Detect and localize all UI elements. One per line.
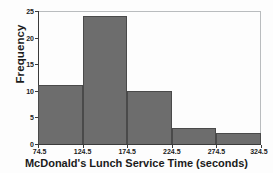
x-axis-label: McDonald's Lunch Service Time (seconds) <box>0 157 273 169</box>
y-tick-label: 10 <box>26 87 34 94</box>
y-tick-mark <box>35 11 38 12</box>
plot-area: 0510152025 74.5124.5174.5224.5274.5324.5 <box>38 11 261 145</box>
y-tick-label: 20 <box>26 34 34 41</box>
x-tick-label: 174.5 <box>118 148 136 155</box>
x-tick-label: 224.5 <box>163 148 181 155</box>
x-tick-label: 324.5 <box>250 148 268 155</box>
y-tick-label: 5 <box>30 114 34 121</box>
x-tick-label: 74.5 <box>33 148 47 155</box>
x-tick-label: 124.5 <box>74 148 92 155</box>
x-axis-line <box>38 144 261 145</box>
x-tick-label: 274.5 <box>208 148 226 155</box>
y-tick-mark <box>35 64 38 65</box>
histogram-bar <box>127 91 172 144</box>
histogram-bar <box>38 85 83 144</box>
y-tick-label: 0 <box>30 141 34 148</box>
y-tick-mark <box>35 38 38 39</box>
plot-frame-right <box>260 11 261 145</box>
y-tick-label: 25 <box>26 8 34 15</box>
plot-frame-top <box>38 11 261 12</box>
histogram-figure: Frequency 0510152025 74.5124.5174.5224.5… <box>0 0 273 173</box>
y-tick-label: 15 <box>26 61 34 68</box>
y-axis-label: Frequency <box>14 10 26 98</box>
histogram-bar <box>83 16 128 144</box>
histogram-bar <box>172 128 217 144</box>
histogram-bar <box>216 133 261 144</box>
